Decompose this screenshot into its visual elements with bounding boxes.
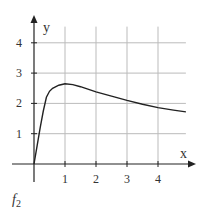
x-axis-arrow-icon: [188, 161, 196, 168]
x-tick-label: 2: [93, 172, 99, 186]
y-tick-label: 3: [16, 66, 22, 80]
x-tick-label: 4: [155, 172, 161, 186]
function-caption: f2: [12, 192, 21, 209]
f2-curve: [34, 84, 186, 164]
y-axis-arrow-icon: [31, 15, 38, 23]
y-tick-label: 2: [16, 96, 22, 110]
y-axis-label: y: [43, 20, 50, 35]
chart: 12341234 x y f2: [0, 0, 207, 209]
y-tick-label: 1: [16, 127, 22, 141]
x-tick-label: 1: [62, 172, 68, 186]
x-axis-label: x: [180, 146, 187, 161]
x-tick-label: 3: [124, 172, 130, 186]
axes: [12, 15, 196, 182]
y-tick-label: 4: [16, 36, 22, 50]
